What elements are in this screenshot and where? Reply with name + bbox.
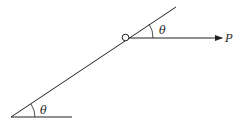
angle-arc-top	[149, 24, 153, 38]
angle-arc-bottom	[31, 104, 35, 117]
diagram-canvas: θ θ P	[0, 0, 242, 125]
force-label: P	[224, 32, 233, 45]
angle-label-top: θ	[159, 24, 166, 37]
inclined-rod	[11, 7, 176, 117]
angle-label-bottom: θ	[40, 104, 47, 117]
ring	[122, 34, 129, 41]
